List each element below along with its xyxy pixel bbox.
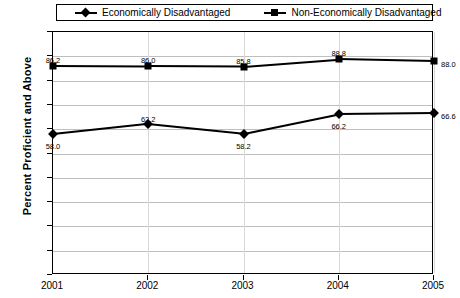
data-label: 58.0 xyxy=(33,142,73,151)
gridline xyxy=(53,81,432,82)
data-label: 66.2 xyxy=(319,122,359,131)
diamond-marker-icon xyxy=(75,8,97,17)
chart-legend: Economically Disadvantaged Non-Economica… xyxy=(56,4,433,21)
square-marker-icon xyxy=(264,8,286,17)
data-label: 86.0 xyxy=(128,56,168,65)
x-axis-tick-label: 2003 xyxy=(213,280,273,291)
gridline xyxy=(53,154,432,155)
data-label: 85.8 xyxy=(224,57,264,66)
data-point-marker xyxy=(334,109,344,119)
data-label: 88.0 xyxy=(441,60,456,69)
gridline xyxy=(53,202,432,203)
gridline xyxy=(53,178,432,179)
line-segment xyxy=(339,58,434,62)
y-axis-title: Percent Proficient and Above xyxy=(21,46,33,226)
legend-label: Economically Disadvantaged xyxy=(102,7,230,18)
x-axis-tick-label: 2001 xyxy=(22,280,82,291)
gridline xyxy=(53,251,432,252)
data-point-marker xyxy=(429,108,439,118)
line-segment xyxy=(339,112,434,115)
gridline xyxy=(53,105,432,106)
data-label: 66.6 xyxy=(441,112,456,121)
data-label: 88.8 xyxy=(319,49,359,58)
gridline xyxy=(53,226,432,227)
data-point-marker xyxy=(48,129,58,139)
data-label: 86.2 xyxy=(33,56,73,65)
y-axis-tick-mark xyxy=(47,274,52,275)
vertical-gridline xyxy=(434,32,435,273)
x-axis-tick-label: 2005 xyxy=(403,280,460,291)
x-axis-tick-label: 2002 xyxy=(117,280,177,291)
plot-area: 58.062.258.266.266.686.286.085.888.888.0 xyxy=(52,31,433,274)
legend-item-economically-disadvantaged: Economically Disadvantaged xyxy=(75,7,230,18)
data-label: 58.2 xyxy=(224,142,264,151)
legend-label: Non-Economically Disadvantaged xyxy=(291,7,441,18)
x-axis-tick-label: 2004 xyxy=(308,280,368,291)
data-label: 62.2 xyxy=(128,115,168,124)
vertical-gridline xyxy=(339,32,340,273)
legend-item-non-economically-disadvantaged: Non-Economically Disadvantaged xyxy=(264,7,441,18)
data-point-marker xyxy=(431,58,438,65)
